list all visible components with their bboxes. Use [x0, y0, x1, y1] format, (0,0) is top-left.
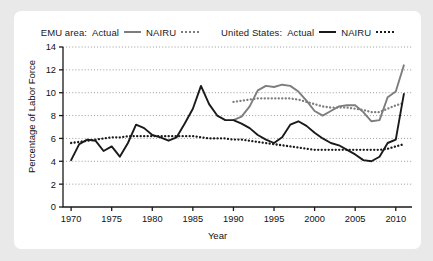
- y-tick-label-10: 10: [46, 88, 56, 98]
- y-tick-label-6: 6: [51, 134, 56, 144]
- y-tick-label-0: 0: [51, 202, 56, 212]
- x-tick-label-1990: 1990: [223, 214, 244, 224]
- y-axis-label: Percentage of Labor Force: [26, 32, 37, 202]
- x-tick-label-2005: 2005: [345, 214, 366, 224]
- x-tick-label-1970: 1970: [61, 214, 82, 224]
- chart-figure: EMU area: Actual NAIRU United States: Ac…: [0, 0, 433, 261]
- y-tick-label-12: 12: [46, 65, 56, 75]
- x-tick-label-1995: 1995: [264, 214, 285, 224]
- x-axis-label: Year: [14, 230, 421, 241]
- x-tick-label-1980: 1980: [142, 214, 163, 224]
- y-tick-label-2: 2: [51, 180, 56, 190]
- x-tick-label-1985: 1985: [183, 214, 204, 224]
- series-line-1: [233, 98, 403, 112]
- chart-svg: 0246810121419701975198019851990199520002…: [14, 11, 421, 249]
- x-tick-label-2000: 2000: [304, 214, 325, 224]
- y-tick-label-8: 8: [51, 111, 56, 121]
- x-tick-label-1975: 1975: [101, 214, 122, 224]
- y-tick-label-4: 4: [51, 157, 56, 167]
- y-tick-label-14: 14: [46, 42, 56, 52]
- chart-panel: EMU area: Actual NAIRU United States: Ac…: [14, 11, 421, 249]
- axis-lines: [63, 47, 412, 207]
- plot-area: 0246810121419701975198019851990199520002…: [14, 11, 421, 249]
- x-tick-label-2010: 2010: [385, 214, 406, 224]
